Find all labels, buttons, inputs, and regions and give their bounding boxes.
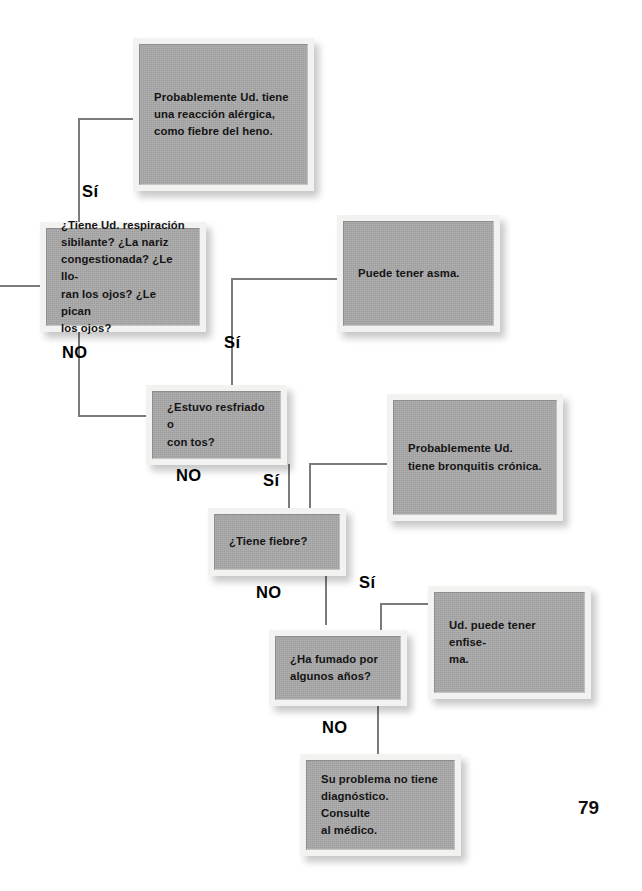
node-question-fever[interactable]: ¿Tiene fiebre? (208, 508, 346, 576)
branch-label-no-wheezing-to-cold: NO (62, 343, 88, 362)
node-question-cold-cough-text: ¿Estuvo resfriado o con tos? (167, 399, 266, 450)
node-allergy-outcome-text: Probablemente Ud. tiene una reacción alé… (154, 89, 289, 140)
node-asthma-outcome-text: Puede tener asma. (358, 265, 460, 282)
node-question-wheezing-inner: ¿Tiene Ud. respiración sibilante? ¿La na… (46, 228, 200, 326)
node-emphysema-outcome-inner: Ud. puede tener enfise- ma. (434, 592, 585, 693)
node-allergy-outcome-inner: Probablemente Ud. tiene una reacción alé… (139, 44, 308, 185)
branch-label-si-cold-to-asthma: Sí (224, 333, 240, 352)
connector-no-fever-vertical (325, 575, 327, 625)
node-bronchitis-outcome-text: Probablemente Ud. tiene bronquitis cróni… (408, 440, 542, 474)
connector-si-fever-vertical (309, 463, 311, 509)
node-question-wheezing-text: ¿Tiene Ud. respiración sibilante? ¿La na… (61, 217, 185, 337)
node-asthma-outcome-inner: Puede tener asma. (343, 221, 494, 326)
node-allergy-outcome[interactable]: Probablemente Ud. tiene una reacción alé… (133, 38, 314, 191)
node-question-cold-cough[interactable]: ¿Estuvo resfriado o con tos? (146, 385, 287, 465)
branch-label-si-fever-to-bronchitis: Sí (263, 471, 279, 490)
node-question-smoking-inner: ¿Ha fumado por algunos años? (275, 636, 401, 700)
node-no-diagnosis-outcome[interactable]: Su problema no tiene diagnóstico. Consul… (300, 754, 461, 856)
branch-label-no-fever-to-smoking: NO (256, 583, 282, 602)
node-question-smoking[interactable]: ¿Ha fumado por algunos años? (269, 630, 407, 706)
node-question-smoking-text: ¿Ha fumado por algunos años? (290, 651, 378, 685)
flowchart-page: Probablemente Ud. tiene una reacción alé… (0, 0, 642, 891)
branch-label-no-smoking-to-nodiagnosis: NO (322, 718, 348, 737)
node-question-cold-cough-inner: ¿Estuvo resfriado o con tos? (152, 391, 281, 459)
connector-no-wheezing-horizontal (78, 415, 146, 417)
connector-no-cold-vertical (288, 464, 290, 509)
connector-si-smoking-vertical (380, 603, 382, 631)
branch-label-si-smoking-to-emphysema: Sí (359, 573, 375, 592)
connector-si-smoking-horizontal (380, 603, 428, 605)
connector-si-cold-horizontal (231, 278, 337, 280)
node-question-fever-inner: ¿Tiene fiebre? (214, 514, 340, 570)
node-no-diagnosis-outcome-inner: Su problema no tiene diagnóstico. Consul… (306, 760, 455, 850)
node-question-wheezing[interactable]: ¿Tiene Ud. respiración sibilante? ¿La na… (40, 222, 206, 332)
connector-si-wheezing-horizontal (78, 118, 134, 120)
branch-label-si-wheezing-to-allergy: Sí (82, 182, 98, 201)
connector-entry-stub (0, 285, 42, 287)
connector-si-wheezing-vertical (78, 118, 80, 223)
node-bronchitis-outcome[interactable]: Probablemente Ud. tiene bronquitis cróni… (387, 394, 563, 521)
node-asthma-outcome[interactable]: Puede tener asma. (337, 215, 500, 332)
connector-si-cold-vertical (231, 278, 233, 386)
branch-label-no-cold-to-fever: NO (176, 466, 202, 485)
node-emphysema-outcome-text: Ud. puede tener enfise- ma. (449, 617, 570, 668)
node-question-fever-text: ¿Tiene fiebre? (229, 533, 307, 550)
node-bronchitis-outcome-inner: Probablemente Ud. tiene bronquitis cróni… (393, 400, 557, 515)
node-no-diagnosis-outcome-text: Su problema no tiene diagnóstico. Consul… (321, 771, 440, 840)
connector-si-fever-horizontal (309, 463, 387, 465)
connector-no-smoking-vertical (377, 705, 379, 755)
page-number: 79 (578, 797, 599, 819)
node-emphysema-outcome[interactable]: Ud. puede tener enfise- ma. (428, 586, 591, 699)
